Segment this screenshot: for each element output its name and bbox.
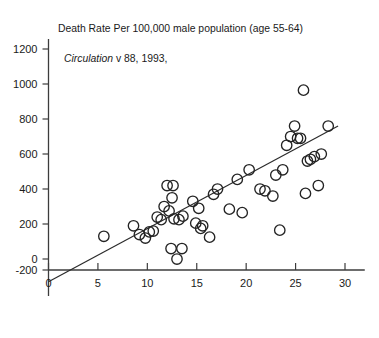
data-points: [99, 85, 334, 264]
y-tick-label: 1000: [13, 78, 37, 90]
data-point-marker: [197, 221, 207, 231]
y-tick-label: 1200: [13, 43, 37, 55]
x-tick-label: 25: [289, 277, 301, 289]
data-point-marker: [162, 180, 172, 190]
x-axis-ticks: 051015202530: [45, 263, 351, 289]
data-point-marker: [323, 121, 333, 131]
data-point-marker: [232, 174, 242, 184]
data-point-marker: [300, 188, 310, 198]
data-point-marker: [166, 243, 176, 253]
y-tick-label: 400: [19, 183, 37, 195]
data-point-marker: [177, 243, 187, 253]
data-point-marker: [313, 180, 323, 190]
data-point-marker: [172, 254, 182, 264]
x-tick-label: 0: [45, 277, 51, 289]
data-point-marker: [167, 193, 177, 203]
scatter-chart: Death Rate Per 100,000 male population (…: [0, 0, 379, 338]
y-axis-ticks: -200020040060080010001200: [13, 43, 48, 276]
data-point-marker: [316, 149, 326, 159]
x-tick-label: 10: [141, 277, 153, 289]
data-point-marker: [188, 196, 198, 206]
data-point-marker: [285, 131, 295, 141]
regression-trendline: [49, 126, 339, 282]
data-point-marker: [168, 180, 178, 190]
data-point-marker: [204, 232, 214, 242]
y-tick-label: 0: [31, 253, 37, 265]
x-tick-label: 20: [240, 277, 252, 289]
data-point-marker: [289, 121, 299, 131]
data-point-marker: [268, 191, 278, 201]
data-point-marker: [99, 231, 109, 241]
x-tick-label: 30: [339, 277, 351, 289]
data-point-marker: [275, 225, 285, 235]
x-tick-label: 15: [191, 277, 203, 289]
data-point-marker: [278, 165, 288, 175]
plot-area: -200020040060080010001200 051015202530: [0, 0, 379, 338]
y-tick-label: 800: [19, 113, 37, 125]
data-point-marker: [237, 207, 247, 217]
y-tick-label: 600: [19, 148, 37, 160]
y-tick-label: -200: [15, 264, 37, 276]
trendline-segment: [49, 126, 339, 282]
data-point-marker: [194, 203, 204, 213]
data-point-marker: [224, 204, 234, 214]
data-point-marker: [298, 85, 308, 95]
y-tick-label: 200: [19, 218, 37, 230]
x-tick-label: 5: [95, 277, 101, 289]
data-point-marker: [271, 170, 281, 180]
